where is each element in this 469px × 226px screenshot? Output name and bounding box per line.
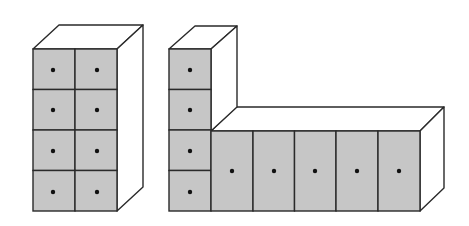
knob-icon xyxy=(95,108,99,112)
knob-icon xyxy=(51,190,55,194)
knob-icon xyxy=(188,108,192,112)
knob-icon xyxy=(188,190,192,194)
knob-icon xyxy=(95,68,99,72)
knob-icon xyxy=(95,190,99,194)
tall-cabinet-side-face xyxy=(117,25,143,211)
tall-cabinet xyxy=(33,25,143,211)
knob-icon xyxy=(95,149,99,153)
knob-icon xyxy=(230,169,234,173)
knob-icon xyxy=(51,108,55,112)
knob-icon xyxy=(355,169,359,173)
knob-icon xyxy=(397,169,401,173)
l-shaped-cabinet xyxy=(169,26,444,211)
tower-front xyxy=(169,49,211,211)
knob-icon xyxy=(313,169,317,173)
knob-icon xyxy=(188,68,192,72)
low-section-top-face xyxy=(211,107,444,131)
drawer-diagram xyxy=(0,0,469,226)
knob-icon xyxy=(51,68,55,72)
knob-icon xyxy=(272,169,276,173)
low-section-front xyxy=(211,131,420,211)
tall-cabinet-front xyxy=(33,49,117,211)
knob-icon xyxy=(188,149,192,153)
knob-icon xyxy=(51,149,55,153)
